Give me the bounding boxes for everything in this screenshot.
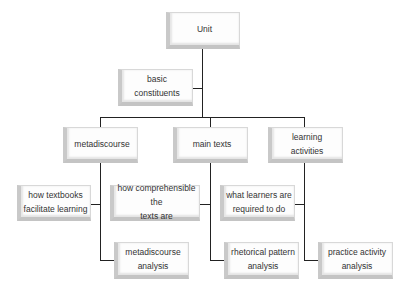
node-metadiscourse-analysis: metadiscourse analysis	[114, 242, 189, 279]
connector-learning-question	[295, 204, 304, 205]
connector-basic-stub	[193, 88, 202, 89]
node-how-comprehensible-line2: texts are	[140, 209, 173, 223]
node-what-learners-line2: required to do	[233, 202, 285, 216]
node-basic-line2: constituents	[134, 86, 179, 100]
node-basic-line1: basic	[147, 72, 167, 86]
connector-metadiscourse-analysis	[100, 260, 114, 261]
node-unit: Unit	[166, 12, 240, 49]
node-main-texts-label: main texts	[193, 137, 232, 151]
node-learning-line2: activities	[291, 144, 324, 158]
node-how-textbooks-line1: how textbooks	[28, 188, 82, 202]
node-what-learners-line1: what learners are	[226, 188, 292, 202]
node-learning-line1: learning	[292, 130, 322, 144]
connector-learning-down	[304, 163, 305, 261]
node-metadiscourse-label: metadiscourse	[74, 137, 129, 151]
node-how-textbooks-line2: facilitate learning	[24, 202, 88, 216]
node-what-learners: what learners are required to do	[220, 185, 295, 221]
node-main-texts: main texts	[173, 127, 248, 163]
node-rhetorical-pattern-analysis: rhetorical pattern analysis	[224, 242, 299, 279]
node-metadiscourse-analysis-line1: metadiscourse	[125, 245, 180, 259]
node-basic-constituents: basic constituents	[118, 69, 193, 106]
connector-to-learning-activities	[304, 117, 305, 127]
node-practice-activity-analysis: practice activity analysis	[318, 242, 393, 279]
node-practice-line1: practice activity	[328, 245, 386, 259]
node-how-comprehensible: how comprehensible the texts are	[110, 185, 200, 221]
connector-to-metadiscourse	[100, 117, 101, 127]
node-rhetorical-line1: rhetorical pattern	[231, 245, 295, 259]
node-metadiscourse: metadiscourse	[63, 127, 138, 163]
node-metadiscourse-analysis-line2: analysis	[138, 259, 169, 273]
connector-learning-analysis	[304, 260, 318, 261]
connector-main-texts-down	[210, 163, 211, 261]
node-practice-line2: analysis	[342, 259, 373, 273]
connector-metadiscourse-down	[100, 163, 101, 261]
node-how-comprehensible-line1: how comprehensible the	[116, 181, 197, 209]
connector-metadiscourse-question	[91, 204, 100, 205]
connector-horizontal-bar	[100, 117, 305, 118]
node-how-textbooks: how textbooks facilitate learning	[17, 185, 91, 221]
node-unit-label: Unit	[197, 22, 212, 36]
connector-root-down	[202, 49, 203, 117]
connector-main-texts-analysis	[210, 260, 224, 261]
connector-main-texts-question	[200, 204, 210, 205]
node-rhetorical-line2: analysis	[248, 259, 279, 273]
node-learning-activities: learning activities	[268, 127, 343, 163]
connector-to-main-texts	[210, 117, 211, 127]
